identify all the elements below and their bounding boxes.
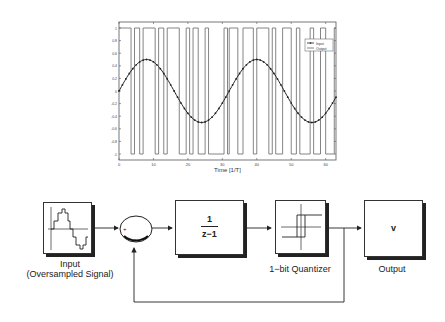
svg-text:-: -: [134, 236, 136, 242]
hysteresis-icon: [276, 201, 325, 253]
integrator-denominator: z−1: [176, 229, 243, 239]
integrator-block[interactable]: 1 z−1: [175, 200, 244, 255]
quantizer-block[interactable]: [275, 200, 326, 254]
output-variable: v: [365, 223, 422, 233]
integrator-numerator: 1: [176, 214, 243, 224]
output-block[interactable]: v: [364, 200, 423, 257]
output-label: Output: [362, 264, 422, 274]
fraction-bar: [201, 226, 218, 227]
svg-text:+: +: [123, 226, 127, 232]
quantizer-label: 1−bit Quantizer: [265, 264, 335, 274]
